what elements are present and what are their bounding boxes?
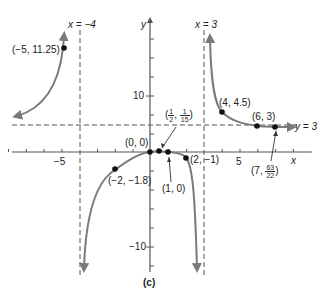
fraction-numerator: 1 bbox=[180, 108, 190, 116]
fraction-denominator: 15 bbox=[180, 116, 190, 123]
point-label-neg2: (−2, −1.8) bbox=[108, 176, 151, 186]
seven-close: ) bbox=[275, 165, 278, 176]
asymptote-label-x-neg4: x = −4 bbox=[68, 20, 96, 30]
point-label-2-neg1: (2, −1) bbox=[190, 155, 219, 165]
seven-open: (7, bbox=[251, 165, 263, 176]
half-sep: , bbox=[174, 109, 177, 120]
y-axis-label: y bbox=[141, 20, 146, 30]
x-axis-label: x bbox=[291, 156, 296, 166]
x-tick-label-neg5: −5 bbox=[54, 157, 65, 167]
point-label-1-0: (1, 0) bbox=[162, 184, 185, 194]
point-label-4-45: (4, 4.5) bbox=[219, 98, 251, 108]
point-label-7: (7, 6322) bbox=[251, 164, 279, 179]
point-label-neg5: (−5, 11.25) bbox=[12, 45, 60, 55]
x-tick-label-5: 5 bbox=[236, 157, 242, 167]
point-label-6-3: (6, 3) bbox=[252, 112, 275, 122]
fraction-one-fifteenth: 115 bbox=[180, 108, 190, 123]
fraction-denominator: 22 bbox=[265, 172, 275, 179]
point-label-half: (12, 115) bbox=[165, 108, 193, 123]
half-close: ) bbox=[190, 109, 193, 120]
fraction-63-22: 6322 bbox=[265, 164, 275, 179]
figure-caption: (c) bbox=[143, 277, 155, 288]
y-tick-label-neg10: −10 bbox=[129, 242, 146, 252]
fraction-numerator: 63 bbox=[265, 164, 275, 172]
asymptote-label-x3: x = 3 bbox=[195, 20, 217, 30]
y-tick-label-10: 10 bbox=[133, 91, 144, 101]
point-label-origin: (0, 0) bbox=[125, 138, 148, 148]
asymptote-label-y3: y = 3 bbox=[295, 122, 317, 132]
